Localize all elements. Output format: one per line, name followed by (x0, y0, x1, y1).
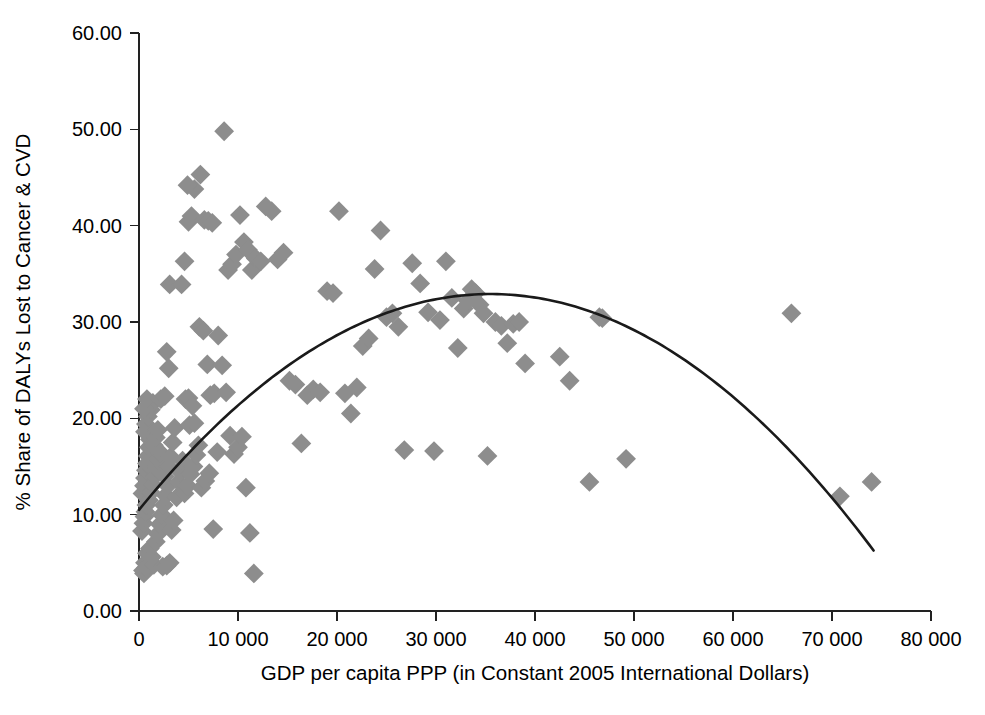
scatter-point (365, 259, 385, 279)
x-tick-label: 70 000 (801, 628, 862, 650)
scatter-chart-figure: 0.0010.0020.0030.0040.0050.0060.00 010 0… (0, 0, 985, 715)
scatter-point (580, 472, 600, 492)
y-tick-label: 40.00 (72, 215, 122, 237)
scatter-point (341, 404, 361, 424)
x-tick-label: 60 000 (702, 628, 763, 650)
scatter-point (371, 221, 391, 241)
trend-curve (139, 294, 874, 550)
scatter-point (478, 446, 498, 466)
scatter-point (208, 326, 228, 346)
scatter-point (560, 371, 580, 391)
scatter-point (424, 441, 444, 461)
y-tick-label: 0.00 (83, 600, 122, 622)
scatter-point (550, 347, 570, 367)
x-tick-label: 0 (133, 628, 144, 650)
scatter-point (291, 433, 311, 453)
scatter-point (230, 205, 250, 225)
scatter-point (497, 333, 517, 353)
scatter-point (515, 354, 535, 374)
y-tick-label: 20.00 (72, 407, 122, 429)
axes-group (139, 33, 931, 611)
x-tick-label: 80 000 (900, 628, 961, 650)
scatter-point (236, 478, 256, 498)
scatter-point (616, 449, 636, 469)
scatter-point (240, 523, 260, 543)
scatter-point (402, 253, 422, 273)
scatter-point (203, 519, 223, 539)
scatter-point (157, 342, 177, 362)
x-tick-label: 20 000 (306, 628, 367, 650)
y-tick-label: 30.00 (72, 311, 122, 333)
y-tick-label: 50.00 (72, 118, 122, 140)
scatter-point (830, 486, 850, 506)
x-axis-title: GDP per capita PPP (in Constant 2005 Int… (261, 661, 810, 684)
chart-canvas: 0.0010.0020.0030.0040.0050.0060.00 010 0… (0, 0, 985, 715)
y-tick-label: 60.00 (72, 22, 122, 44)
scatter-point (862, 472, 882, 492)
y-tick-label: 10.00 (72, 504, 122, 526)
x-tick-label: 10 000 (207, 628, 268, 650)
x-tick-label: 50 000 (603, 628, 664, 650)
y-axis-title: % Share of DALYs Lost to Cancer & CVD (11, 134, 34, 511)
x-tick-label: 40 000 (504, 628, 565, 650)
scatter-point (214, 121, 234, 141)
scatter-point (212, 355, 232, 375)
scatter-point (207, 442, 227, 462)
scatter-point (165, 418, 185, 438)
scatter-point (448, 338, 468, 358)
scatter-point (172, 275, 192, 295)
scatter-point (782, 303, 802, 323)
y-axis-ticks: 0.0010.0020.0030.0040.0050.0060.00 (72, 22, 139, 622)
scatter-point (394, 440, 414, 460)
scatter-point (175, 251, 195, 271)
scatter-point (159, 358, 179, 378)
x-tick-label: 30 000 (405, 628, 466, 650)
x-axis-ticks: 010 00020 00030 00040 00050 00060 00070 … (133, 611, 961, 650)
scatter-markers-group (132, 121, 881, 583)
scatter-point (216, 382, 236, 402)
scatter-point (329, 201, 349, 221)
scatter-point (410, 274, 430, 294)
scatter-point (436, 251, 456, 271)
scatter-point (244, 564, 264, 584)
